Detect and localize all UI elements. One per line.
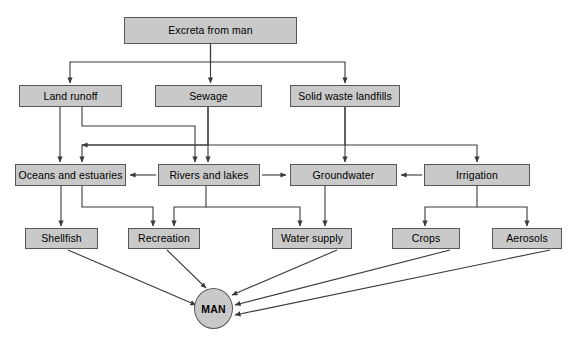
node-shellfish[interactable]: Shellfish (25, 228, 98, 249)
edge-land-runoff-to-rivers (82, 107, 195, 162)
edge-landfills-to-irrigation (345, 145, 477, 162)
edge-shellfish-to-man (68, 250, 196, 305)
edge-excreta-to-landfills (211, 44, 346, 83)
node-aerosols[interactable]: Aerosols (492, 228, 562, 249)
flowchart-diagram: Excreta from man Land runoff Sewage Soli… (0, 0, 582, 342)
node-label: Crops (412, 233, 441, 244)
node-land-runoff[interactable]: Land runoff (19, 85, 122, 107)
node-sewage[interactable]: Sewage (155, 85, 262, 107)
node-label: Solid waste landfills (298, 91, 392, 102)
node-irrigation[interactable]: Irrigation (424, 164, 530, 186)
edge-sewage-to-oceans (82, 107, 208, 162)
node-label: Excreta from man (168, 25, 252, 36)
edge-excreta-to-land-runoff (70, 44, 211, 83)
node-solid-waste-landfills[interactable]: Solid waste landfills (290, 85, 400, 107)
edge-water-supply-to-man (232, 250, 337, 295)
node-label: Aerosols (506, 233, 548, 244)
edge-irrigation-to-crops (425, 186, 477, 226)
node-man[interactable]: MAN (194, 288, 233, 329)
node-label: Groundwater (313, 170, 375, 181)
node-label: Rivers and lakes (169, 170, 248, 181)
node-label: Sewage (189, 91, 228, 102)
node-label: Irrigation (456, 170, 498, 181)
edge-oceans-to-recreation (82, 186, 153, 226)
node-label: Land runoff (43, 91, 97, 102)
node-label: Shellfish (41, 233, 82, 244)
node-rivers-and-lakes[interactable]: Rivers and lakes (158, 164, 260, 186)
node-excreta-from-man[interactable]: Excreta from man (124, 17, 297, 44)
node-label: Recreation (138, 233, 190, 244)
node-recreation[interactable]: Recreation (128, 228, 200, 249)
node-crops[interactable]: Crops (392, 228, 460, 249)
edge-aerosols-to-man (235, 250, 550, 315)
edge-rivers-to-water-supply (206, 207, 300, 226)
edge-irrigation-to-aerosols (477, 207, 527, 226)
edge-recreation-to-man (167, 250, 206, 288)
edge-rivers-to-recreation (174, 186, 206, 226)
node-label: MAN (201, 303, 226, 315)
node-water-supply[interactable]: Water supply (272, 228, 352, 249)
node-label: Oceans and estuaries (18, 170, 122, 181)
node-oceans-and-estuaries[interactable]: Oceans and estuaries (15, 164, 126, 186)
node-groundwater[interactable]: Groundwater (290, 164, 397, 186)
node-label: Water supply (281, 233, 343, 244)
